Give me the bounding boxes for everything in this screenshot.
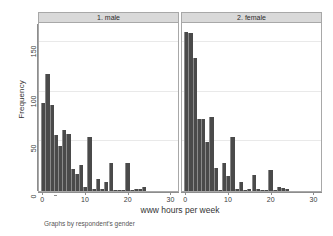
x-tick-label: 10 [81,196,89,203]
x-tick-mark [85,192,86,195]
panel-male: 1. male [38,12,179,192]
x-tick-mark [228,192,229,195]
panel-title: 2. female [237,14,266,21]
figure-note: Graphs by respondent's gender [44,220,135,227]
y-axis-ticks: 050100150 [20,28,34,194]
histogram-figure: Frequency 050100150 1. male2. female 010… [0,0,333,236]
x-tick-mark [271,192,272,195]
histogram-bar [285,189,289,191]
x-axis: 01020300102030 [38,192,322,206]
histogram-bar [230,137,234,191]
x-tick-mark [42,192,43,195]
y-tick-label: 150 [31,45,38,57]
histogram-bar [87,137,91,191]
x-axis-title: www hours per week [38,205,322,215]
bar-group [39,23,178,191]
panel-female: 2. female [181,12,322,192]
histogram-bar [214,168,218,191]
panel-row: 1. male2. female [38,12,322,192]
x-tick-label: 0 [183,196,187,203]
x-tick-label: 20 [124,196,132,203]
x-tick-mark [170,192,171,195]
x-tick-mark [313,192,314,195]
x-tick-label: 0 [40,196,44,203]
y-tick-label: 100 [31,95,38,107]
plot-area-female [181,22,322,192]
x-tick-label: 10 [224,196,232,203]
histogram-bar [125,163,129,191]
y-tick-label: 0 [31,195,38,199]
x-tick-label: 30 [310,196,318,203]
x-axis-line [38,192,179,193]
x-tick-mark [185,192,186,195]
y-tick-label: 50 [31,145,38,153]
histogram-bar [142,187,146,191]
x-axis-line [181,192,322,193]
x-tick-label: 30 [167,196,175,203]
histogram-bar [109,163,113,191]
panel-header-male: 1. male [38,12,179,22]
histogram-bar [268,170,272,191]
bar-group [182,23,321,191]
x-tick-mark [128,192,129,195]
plot-area-male [38,22,179,192]
x-tick-label: 20 [267,196,275,203]
panel-title: 1. male [97,14,120,21]
panel-header-female: 2. female [181,12,322,22]
